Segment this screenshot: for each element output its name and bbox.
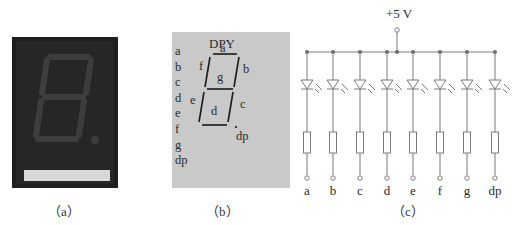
dp-dot bbox=[235, 126, 237, 128]
segment-label-a: a bbox=[220, 41, 226, 56]
led-resistor-branch bbox=[489, 50, 510, 180]
terminal-label: d bbox=[384, 183, 391, 199]
base-strip bbox=[24, 170, 110, 181]
terminal-label: c bbox=[357, 183, 363, 199]
terminal-label: g bbox=[464, 183, 471, 199]
circuit-schematic bbox=[295, 0, 519, 225]
segment-label-c: c bbox=[240, 97, 246, 112]
segment-label-e: e bbox=[190, 93, 196, 108]
segment-outline bbox=[172, 32, 290, 188]
common-anode-circuit: +5 V abcdefgdp bbox=[295, 0, 519, 225]
led-resistor-branch bbox=[327, 50, 348, 180]
junction-node bbox=[395, 50, 399, 54]
caption-c: （c） bbox=[392, 201, 424, 220]
terminal-label: a bbox=[304, 183, 310, 199]
segment-label-dp: dp bbox=[236, 129, 249, 144]
segment-label-b: b bbox=[243, 62, 249, 77]
led-resistor-branch bbox=[407, 50, 428, 180]
caption-b: （b） bbox=[206, 201, 239, 220]
seven-segment-photo bbox=[12, 37, 118, 188]
led-resistor-branch bbox=[354, 50, 375, 180]
terminal-label: f bbox=[438, 183, 442, 199]
segment-label-d: d bbox=[211, 104, 217, 119]
led-resistor-branch bbox=[381, 50, 402, 180]
seven-segment-glyph bbox=[12, 37, 118, 188]
led-resistor-branch bbox=[461, 50, 482, 180]
led-resistor-branch bbox=[434, 50, 455, 180]
led-resistor-branch bbox=[301, 50, 322, 180]
caption-a: （a） bbox=[48, 201, 80, 220]
terminal-label: dp bbox=[489, 183, 502, 199]
segment-label-f: f bbox=[199, 59, 203, 74]
dpy-schematic: DPY a b c d e f g dp a b c d e f g dp bbox=[172, 32, 290, 188]
terminal-label: e bbox=[410, 183, 416, 199]
terminal-label: b bbox=[330, 183, 337, 199]
segment-label-g: g bbox=[217, 70, 223, 85]
